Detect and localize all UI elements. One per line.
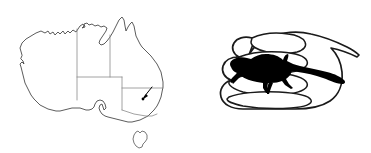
index-finger xyxy=(251,33,306,53)
pinky-finger xyxy=(227,92,311,109)
locality-point-marker xyxy=(142,98,145,101)
hand-scale-reference xyxy=(185,0,371,153)
figure-container xyxy=(0,0,371,153)
australia-mainland-outline xyxy=(20,17,163,122)
australia-distribution-map xyxy=(0,0,185,153)
tasmania-outline xyxy=(133,131,147,148)
